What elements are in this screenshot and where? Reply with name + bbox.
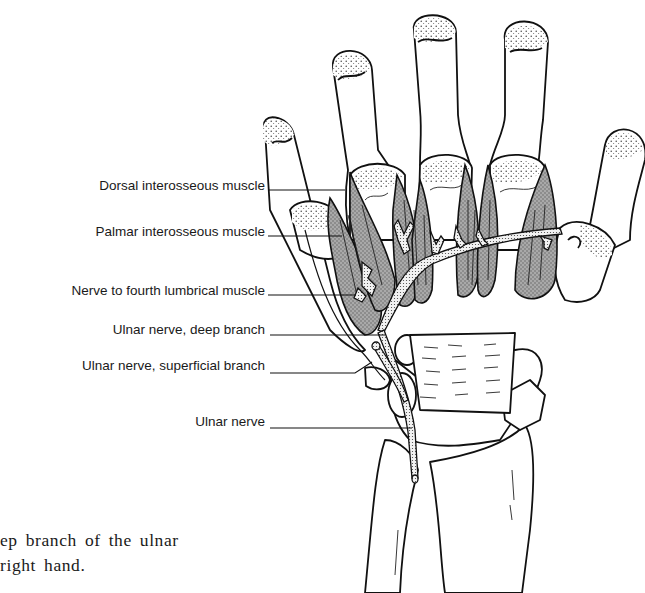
caption-line-2: right hand. xyxy=(0,553,179,578)
thumb xyxy=(555,129,645,302)
label-nerve-to-fourth-lumbrical: Nerve to fourth lumbrical muscle xyxy=(71,283,265,299)
caption-line-1: ep branch of the ulnar xyxy=(0,528,179,553)
label-dorsal-interosseous-muscle: Dorsal interosseous muscle xyxy=(99,178,265,194)
figure-caption: ep branch of the ulnar right hand. xyxy=(0,528,179,578)
forearm-bones xyxy=(365,425,533,593)
label-ulnar-nerve-deep-branch: Ulnar nerve, deep branch xyxy=(113,322,265,338)
anatomical-figure: Dorsal interosseous muscle Palmar intero… xyxy=(0,0,645,593)
label-ulnar-nerve-superficial-branch: Ulnar nerve, superficial branch xyxy=(82,358,265,374)
label-palmar-interosseous-muscle: Palmar interosseous muscle xyxy=(95,224,265,240)
label-ulnar-nerve: Ulnar nerve xyxy=(195,414,265,430)
